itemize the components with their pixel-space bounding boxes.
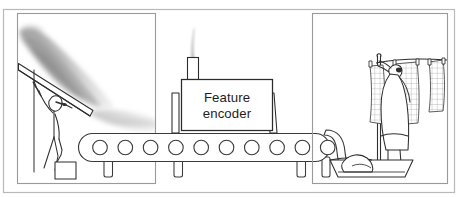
machine-label-line1: Feature bbox=[204, 90, 250, 105]
machine-label-line2: encoder bbox=[203, 106, 252, 121]
machine-body bbox=[182, 80, 273, 131]
chimney bbox=[188, 58, 199, 80]
scene-svg: Feature encoder bbox=[0, 0, 469, 197]
hanging-cloth-3 bbox=[429, 60, 445, 112]
illustration-canvas: Feature encoder bbox=[0, 0, 469, 197]
